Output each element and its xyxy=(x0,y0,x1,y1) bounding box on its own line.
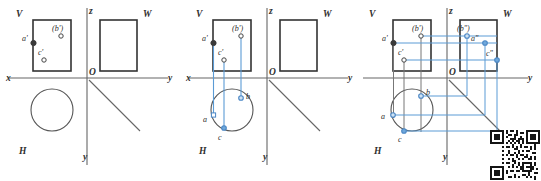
label-axis-z: z xyxy=(448,6,453,16)
point-b-prime xyxy=(419,34,423,38)
label-w-plane: W xyxy=(503,9,512,19)
label-v-plane: V xyxy=(369,9,376,19)
point-a-prime xyxy=(31,40,36,45)
point-a-prime xyxy=(211,40,216,45)
miter-line xyxy=(449,80,500,131)
label-origin: O xyxy=(449,67,456,77)
label-point-a-double-prime: a" xyxy=(471,34,479,43)
label-axis-y-down: y xyxy=(82,152,88,162)
label-h-plane: H xyxy=(18,146,27,156)
point-c xyxy=(222,126,227,131)
label-point-c-double-prime: c" xyxy=(486,49,494,58)
label-point-a: a xyxy=(203,115,207,124)
label-axis-y-right: y xyxy=(167,73,173,83)
point-b-prime xyxy=(239,34,243,38)
label-h-plane: H xyxy=(198,146,207,156)
point-b-prime xyxy=(59,34,63,38)
label-v-plane: V xyxy=(196,9,203,19)
point-a-prime xyxy=(391,40,396,45)
point-c xyxy=(402,129,407,134)
label-point-b-prime: (b') xyxy=(412,24,423,33)
panel-2-horizontal-projection: V W H x y y z O a' (b') c' a b c xyxy=(180,0,360,181)
w-plane-rectangle xyxy=(280,20,317,71)
panel-1-initial-projection: V W H x y y z O a' (b') c' xyxy=(0,0,180,181)
label-w-plane: W xyxy=(323,9,332,19)
label-point-c: c xyxy=(218,133,222,142)
figure-canvas: V W H x y y z O a' (b') c' xyxy=(0,0,541,181)
panel-2-svg: V W H x y y z O a' (b') c' a b c xyxy=(180,0,360,181)
label-origin: O xyxy=(89,67,96,77)
label-axis-y-down: y xyxy=(442,152,448,162)
label-point-b: b xyxy=(246,92,250,101)
label-point-b-prime: (b') xyxy=(52,24,63,33)
miter-line xyxy=(269,80,320,131)
label-origin: O xyxy=(269,67,276,77)
label-point-a: a xyxy=(381,112,385,121)
label-axis-x: x xyxy=(185,73,191,83)
panel-1-svg: V W H x y y z O a' (b') c' xyxy=(0,0,180,181)
point-a-double-prime xyxy=(483,41,488,46)
label-point-a-prime: a' xyxy=(202,34,208,43)
label-point-c-prime: c' xyxy=(218,48,224,57)
label-point-a-prime: a' xyxy=(22,34,28,43)
label-v-plane: V xyxy=(16,9,23,19)
label-axis-y-right: y xyxy=(347,73,353,83)
miter-line xyxy=(89,80,140,131)
point-b xyxy=(239,96,244,101)
label-point-c-prime: c' xyxy=(398,48,404,57)
point-c-prime xyxy=(222,58,226,62)
label-axis-z: z xyxy=(268,6,273,16)
point-b xyxy=(419,94,424,99)
label-point-c-prime: c' xyxy=(38,48,44,57)
point-c-prime xyxy=(42,58,46,62)
point-b-double-prime xyxy=(465,34,470,39)
label-point-a-prime: a' xyxy=(382,34,388,43)
label-axis-y-down: y xyxy=(262,152,268,162)
label-point-b: b xyxy=(426,88,430,97)
label-point-b-double-prime: (b") xyxy=(457,24,470,33)
label-point-b-prime: (b') xyxy=(232,24,243,33)
w-plane-rectangle xyxy=(100,20,137,71)
label-axis-z: z xyxy=(88,6,93,16)
label-w-plane: W xyxy=(143,9,152,19)
label-axis-y-right: y xyxy=(527,73,533,83)
point-c-double-prime xyxy=(495,58,500,63)
point-a xyxy=(211,113,215,117)
qr-code[interactable] xyxy=(490,130,540,180)
point-c-prime xyxy=(402,58,406,62)
label-h-plane: H xyxy=(373,146,382,156)
point-a xyxy=(391,113,396,118)
h-plane-circle xyxy=(31,89,73,131)
label-axis-x: x xyxy=(5,73,11,83)
label-point-c: c xyxy=(398,135,402,144)
